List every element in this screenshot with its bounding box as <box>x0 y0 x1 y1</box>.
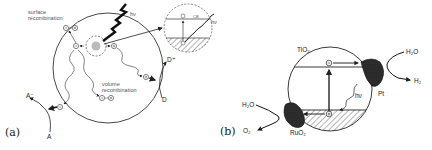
ruo2-label: RuO₂ <box>290 129 306 136</box>
acceptor-curve <box>30 98 51 132</box>
photocatalysis-figure: hν CB hν surface recombination <box>0 0 432 150</box>
pt-label: Pt <box>378 90 384 97</box>
band-inset: CB hν <box>164 4 217 52</box>
pt-deposit <box>361 59 384 86</box>
electron-center <box>69 31 84 49</box>
photon-wave-icon <box>103 4 126 41</box>
volume-recombination-pair <box>99 95 113 100</box>
surface-recombination-label: surface recombination <box>28 9 63 21</box>
inset-cb-label: CB <box>193 14 199 19</box>
volume-recombination-label: volume recombination <box>102 81 137 93</box>
o2-evolution-curve <box>256 105 279 130</box>
ruo2-deposit <box>284 103 305 128</box>
inset-photon-label: hν <box>211 19 217 25</box>
h2-evolution-curve <box>387 52 410 80</box>
panel-a: hν CB hν surface recombination <box>5 4 217 140</box>
hydrogen-label: H₂ <box>414 77 422 84</box>
panel-a-label: (a) <box>5 126 20 139</box>
panel-b-label: (b) <box>220 125 236 138</box>
particle-circle <box>53 13 163 123</box>
donor-label: D <box>162 96 167 103</box>
electron-path-acceptor <box>64 50 74 104</box>
tio2-label: TiO₂ <box>297 46 310 53</box>
water-left-label: H₂O <box>242 101 254 108</box>
photon-label: hν <box>130 11 136 17</box>
acceptor-label: A <box>47 133 52 140</box>
panel-b: TiO₂ Pt RuO₂ hν H₂O H₂ H₂O O₂ (b) <box>220 46 422 138</box>
electron-path-volume <box>78 50 99 96</box>
donor-oxidized-label: D⁺ <box>167 56 176 63</box>
oxygen-label: O₂ <box>243 127 251 134</box>
acceptor-reduced-label: A⁻ <box>26 92 34 99</box>
hole-center <box>106 43 117 48</box>
water-right-label: H₂O <box>406 48 418 55</box>
photon-label-b: hν <box>355 92 362 99</box>
hole-path-donor <box>117 48 142 76</box>
surface-recombination-pair <box>63 25 77 30</box>
excitation-spot <box>92 42 101 51</box>
